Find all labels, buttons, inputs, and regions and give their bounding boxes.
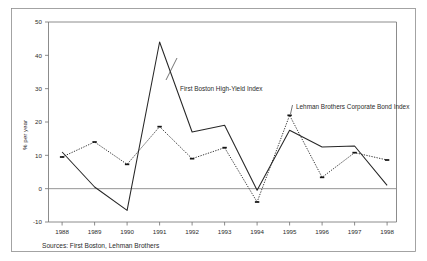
- source-note: Sources: First Boston, Lehman Brothers: [42, 242, 160, 249]
- y-tick-label: 30: [35, 85, 42, 92]
- y-tick-label: 20: [35, 118, 42, 125]
- data-point-marker: [60, 156, 64, 158]
- data-point-marker: [320, 176, 324, 178]
- data-point-marker: [92, 141, 96, 143]
- annotation-first-boston-high-yield-index: First Boston High-Yield Index: [180, 85, 263, 93]
- annotation-leader-lehman: [291, 105, 293, 114]
- figure-border: [12, 9, 416, 252]
- series-markers-lehman: [60, 114, 389, 202]
- y-axis-title: % per year: [21, 120, 28, 150]
- y-tick-label: 40: [35, 52, 42, 59]
- y-tick-label: -10: [33, 218, 43, 225]
- x-tick-label-1997: 1997: [348, 228, 362, 235]
- x-tick-label-1989: 1989: [88, 228, 102, 235]
- x-tick-label-1996: 1996: [315, 228, 329, 235]
- annotation-leader-first-boston: [166, 58, 177, 80]
- y-tick-label: 50: [35, 18, 42, 25]
- data-point-marker: [352, 152, 356, 154]
- chart-figure: 50 40 30 20 10 0 -10 % per year 1988 198…: [0, 0, 427, 261]
- x-tick-label-1994: 1994: [250, 228, 264, 235]
- data-point-marker: [222, 147, 226, 149]
- x-tick-labels: 1988 1989 1990 1991 1992 1993 1994 1995 …: [55, 228, 394, 235]
- x-tick-label-1990: 1990: [120, 228, 134, 235]
- x-tick-label-1998: 1998: [380, 228, 394, 235]
- y-tick-label: 10: [35, 152, 42, 159]
- annotation-lehman-brothers-corporate-bond-index: Lehman Brothers Corporate Bond Index: [296, 103, 410, 111]
- y-tick-marks: [45, 22, 49, 222]
- data-point-marker: [385, 159, 389, 161]
- data-point-marker: [255, 201, 259, 203]
- data-point-marker: [190, 158, 194, 160]
- y-tick-labels: 50 40 30 20 10 0 -10: [33, 18, 43, 225]
- x-tick-label-1995: 1995: [283, 228, 297, 235]
- data-point-marker: [157, 126, 161, 128]
- x-tick-label-1988: 1988: [55, 228, 69, 235]
- y-tick-label: 0: [39, 185, 43, 192]
- x-tick-marks: [62, 222, 387, 226]
- x-tick-label-1992: 1992: [185, 228, 199, 235]
- data-point-marker: [125, 163, 129, 165]
- data-point-marker: [287, 114, 291, 116]
- series-line-first-boston-high-yield-index: [62, 42, 387, 210]
- x-tick-label-1991: 1991: [153, 228, 167, 235]
- x-tick-label-1993: 1993: [218, 228, 232, 235]
